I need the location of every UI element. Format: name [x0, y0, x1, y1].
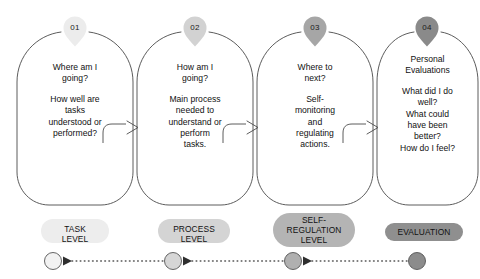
timeline-node-1 — [45, 253, 62, 270]
card-3-line: Self- — [257, 94, 373, 105]
level-label-1: TASK LEVEL — [41, 224, 109, 244]
level-label-2-line: LEVEL — [158, 234, 230, 244]
spacer — [17, 85, 133, 94]
card-body-4: Personal Evaluations What did I do well?… — [377, 54, 478, 154]
level-label-4: EVALUATION — [385, 227, 463, 237]
level-label-4-line: EVALUATION — [385, 227, 463, 237]
level-label-1-line: LEVEL — [41, 234, 109, 244]
timeline-arrowhead-1 — [63, 257, 72, 266]
card-1-line: tasks — [17, 105, 133, 116]
level-label-3: SELF- REGULATION LEVEL — [273, 215, 355, 246]
spacer — [257, 85, 373, 94]
card-4-line: What could — [377, 109, 478, 120]
step-badge-number-3: 03 — [300, 23, 330, 32]
card-2-paragraph-1: How am I going? — [137, 62, 253, 85]
timeline-node-3 — [285, 253, 302, 270]
card-4-line: well? — [377, 97, 478, 108]
card-3-line: Where to — [257, 62, 373, 73]
card-3-paragraph-2: Self- monitoring and regulating actions. — [257, 94, 373, 151]
level-label-2: PROCESS LEVEL — [158, 224, 230, 244]
card-4-paragraph-2: What did I do well? What could have been… — [377, 86, 478, 154]
card-2-line: going? — [137, 73, 253, 84]
card-1-line: performed? — [17, 128, 133, 139]
step-badge-number-2: 02 — [180, 23, 210, 32]
step-badge-number-1: 01 — [60, 23, 90, 32]
card-2-line: understand or — [137, 117, 253, 128]
spacer — [377, 77, 478, 86]
level-label-3-line: SELF- — [273, 215, 355, 225]
card-1-line: going? — [17, 73, 133, 84]
diagram-canvas: 01 02 03 04 Where am I going? How well a… — [0, 0, 480, 279]
card-1-paragraph-1: Where am I going? — [17, 62, 133, 85]
card-3-line: next? — [257, 73, 373, 84]
card-2-paragraph-2: Main process needed to understand or per… — [137, 94, 253, 151]
step-badge-number-4: 04 — [412, 23, 442, 32]
card-2-line: How am I — [137, 62, 253, 73]
level-label-2-line: PROCESS — [158, 224, 230, 234]
spacer — [137, 85, 253, 94]
card-1-line: Where am I — [17, 62, 133, 73]
card-3-line: regulating — [257, 128, 373, 139]
card-1-paragraph-2: How well are tasks understood or perform… — [17, 94, 133, 140]
timeline-arrowhead-3 — [303, 257, 312, 266]
card-1-line: understood or — [17, 117, 133, 128]
card-3-paragraph-1: Where to next? — [257, 62, 373, 85]
level-label-3-line: LEVEL — [273, 235, 355, 245]
card-4-line: Personal — [377, 54, 478, 65]
level-label-1-line: TASK — [41, 224, 109, 234]
card-body-1: Where am I going? How well are tasks und… — [17, 62, 133, 139]
card-2-line: needed to — [137, 105, 253, 116]
card-2-line: Main process — [137, 94, 253, 105]
level-label-3-line: REGULATION — [273, 225, 355, 235]
card-3-line: and — [257, 117, 373, 128]
card-4-line: What did I do — [377, 86, 478, 97]
card-4-paragraph-1: Personal Evaluations — [377, 54, 478, 77]
card-4-line: better? — [377, 131, 478, 142]
card-4-line: Evaluations — [377, 65, 478, 76]
timeline-node-2 — [165, 253, 182, 270]
card-body-2: How am I going? Main process needed to u… — [137, 62, 253, 151]
card-3-line: actions. — [257, 139, 373, 150]
card-2-line: perform — [137, 128, 253, 139]
timeline-node-4 — [409, 253, 426, 270]
card-body-3: Where to next? Self- monitoring and regu… — [257, 62, 373, 151]
card-4-line: have been — [377, 120, 478, 131]
timeline-arrowhead-2 — [183, 257, 192, 266]
card-3-line: monitoring — [257, 105, 373, 116]
card-4-line: How do I feel? — [377, 143, 478, 154]
card-1-line: How well are — [17, 94, 133, 105]
card-2-line: tasks. — [137, 139, 253, 150]
